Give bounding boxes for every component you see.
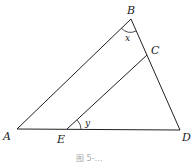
label-b: B: [126, 4, 135, 17]
angle-x-arc: [121, 28, 136, 32]
label-a: A: [2, 130, 11, 143]
angle-y-label: y: [84, 118, 91, 128]
segment-bd: [131, 19, 180, 130]
label-d: D: [181, 131, 191, 144]
figure-caption: 图 5-…: [76, 154, 103, 162]
angle-x-label: x: [125, 33, 130, 43]
segment-ec: [67, 55, 147, 129]
segment-ab: [17, 19, 131, 129]
geometry-diagram: A B C D E x y 图 5-…: [0, 0, 192, 162]
angle-y-arc: [77, 120, 81, 129]
label-c: C: [151, 44, 160, 57]
label-e: E: [56, 133, 65, 146]
segment-ad: [17, 129, 180, 130]
